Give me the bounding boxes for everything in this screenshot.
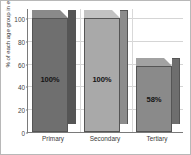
x-tick-label: Tertiary: [147, 135, 168, 142]
y-tick-mark: [26, 41, 28, 42]
chart-container: % of each age group in education 0204060…: [0, 0, 191, 155]
y-tick-label: 60: [18, 61, 25, 68]
y-tick-mark: [26, 133, 28, 134]
y-tick-label: 40: [18, 84, 25, 91]
bar-value-label: 58%: [136, 95, 172, 104]
category-separator: [132, 9, 133, 132]
y-tick-label: 20: [18, 107, 25, 114]
y-tick-label: 100: [14, 16, 25, 23]
bar-secondary[interactable]: 100%: [84, 10, 120, 132]
x-tick-label: Secondary: [90, 135, 121, 142]
y-tick-mark: [26, 87, 28, 88]
bar-primary[interactable]: 100%: [32, 10, 68, 132]
bar-side-face: [68, 10, 76, 124]
bar-top-face: [32, 10, 68, 18]
y-axis-title: % of each age group in education: [2, 0, 14, 82]
bar-tertiary[interactable]: 58%: [136, 58, 172, 132]
plot-area: 020406080100100%100%58%: [27, 9, 183, 133]
y-tick-mark: [26, 64, 28, 65]
x-tick-label: Primary: [42, 135, 64, 142]
bar-side-face: [120, 10, 128, 124]
y-tick-label: 0: [21, 130, 25, 137]
y-tick-label: 80: [18, 38, 25, 45]
y-tick-mark: [26, 110, 28, 111]
bar-top-face: [136, 58, 172, 66]
bar-value-label: 100%: [32, 75, 68, 84]
bar-top-face: [84, 10, 120, 18]
x-axis-labels: PrimarySecondaryTertiary: [27, 135, 183, 149]
bar-side-face: [172, 58, 180, 124]
y-tick-mark: [26, 19, 28, 20]
bar-value-label: 100%: [84, 75, 120, 84]
category-separator: [80, 9, 81, 132]
